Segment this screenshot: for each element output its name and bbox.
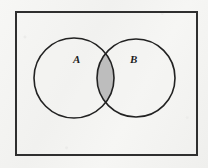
set-a-label: A — [73, 54, 80, 65]
venn-diagram-figure: A B — [0, 0, 208, 168]
venn-diagram-canvas — [0, 0, 208, 168]
set-b-label: B — [130, 54, 137, 65]
